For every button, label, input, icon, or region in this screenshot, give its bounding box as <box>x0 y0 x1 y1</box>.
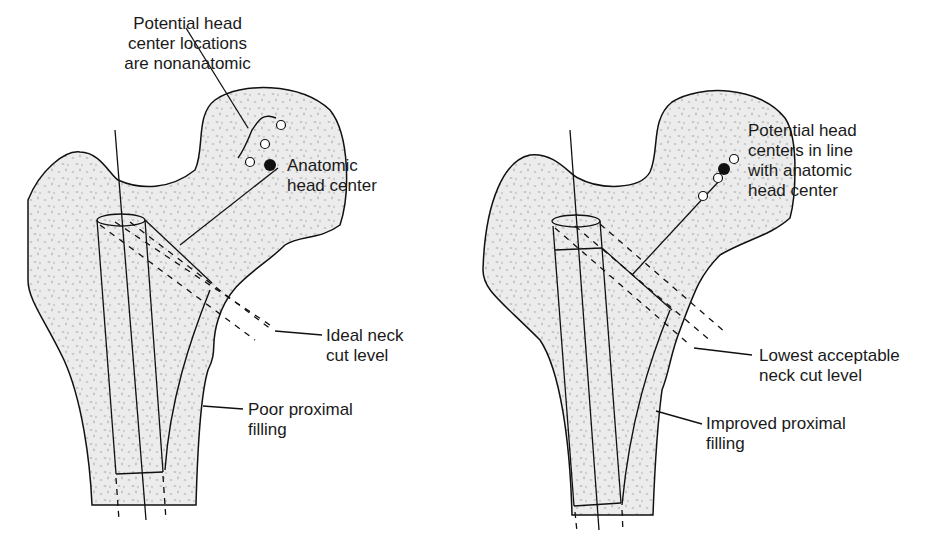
label-line: centers in line <box>748 141 857 161</box>
label-line: Potential head <box>748 121 857 141</box>
label-improved-proximal-filling: Improved proximal filling <box>706 414 846 454</box>
left-femur <box>28 28 347 520</box>
anatomic-head-center-dot <box>264 159 276 171</box>
femur-diagram <box>0 0 946 546</box>
label-line: Poor proximal <box>248 400 353 420</box>
label-line: Ideal neck <box>326 326 404 346</box>
anatomic-head-center-dot-right <box>718 163 730 175</box>
label-line: are nonanatomic <box>100 54 275 74</box>
label-anatomic-head-center: Anatomic head center <box>287 156 377 196</box>
label-line: filling <box>706 434 846 454</box>
label-line: Anatomic <box>287 156 377 176</box>
label-line: neck cut level <box>759 366 900 386</box>
label-nonanatomic-centers: Potential head center locations are nona… <box>100 14 275 74</box>
label-poor-proximal-filling: Poor proximal filling <box>248 400 353 440</box>
label-line: Potential head <box>100 14 275 34</box>
label-inline-head-centers: Potential head centers in line with anat… <box>748 121 857 201</box>
label-line: filling <box>248 420 353 440</box>
label-lowest-acceptable-neck-cut: Lowest acceptable neck cut level <box>759 346 900 386</box>
label-line: cut level <box>326 346 404 366</box>
label-ideal-neck-cut: Ideal neck cut level <box>326 326 404 366</box>
label-line: head center <box>287 176 377 196</box>
label-line: with anatomic <box>748 161 857 181</box>
label-line: center locations <box>100 34 275 54</box>
label-line: Improved proximal <box>706 414 846 434</box>
label-line: Lowest acceptable <box>759 346 900 366</box>
label-line: head center <box>748 181 857 201</box>
